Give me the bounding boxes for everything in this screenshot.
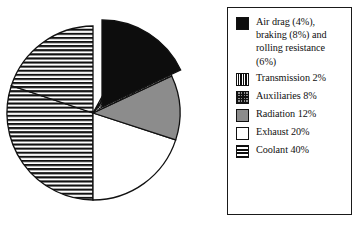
legend-item-exhaust[interactable]: Exhaust 20%: [236, 125, 347, 140]
legend-label-coolant: Coolant 40%: [256, 143, 309, 156]
legend-item-airdrag[interactable]: Air drag (4%), braking (8%) and rolling …: [236, 15, 347, 68]
pie-chart-area: [0, 0, 200, 234]
pie-chart-svg: [0, 0, 200, 234]
pie-chart-figure: Air drag (4%), braking (8%) and rolling …: [0, 0, 364, 234]
white-swatch-icon: [236, 127, 249, 140]
legend-label-airdrag: Air drag (4%), braking (8%) and rolling …: [256, 15, 347, 68]
legend-label-transmission: Transmission 2%: [256, 71, 326, 84]
legend-label-auxiliaries: Auxiliaries 8%: [256, 89, 317, 102]
legend-list: Air drag (4%), braking (8%) and rolling …: [236, 15, 347, 161]
solid-gray-swatch-icon: [236, 109, 249, 122]
legend-label-radiation: Radiation 12%: [256, 107, 316, 120]
checker-swatch-icon: [236, 91, 249, 104]
horizontal-stripes-swatch-icon: [236, 145, 249, 158]
legend-item-transmission[interactable]: Transmission 2%: [236, 71, 347, 86]
legend-label-exhaust: Exhaust 20%: [256, 125, 310, 138]
legend-item-radiation[interactable]: Radiation 12%: [236, 107, 347, 122]
legend-item-auxiliaries[interactable]: Auxiliaries 8%: [236, 89, 347, 104]
vertical-stripes-swatch-icon: [236, 73, 249, 86]
legend: Air drag (4%), braking (8%) and rolling …: [227, 7, 352, 215]
solid-black-swatch-icon: [236, 17, 249, 30]
legend-item-coolant[interactable]: Coolant 40%: [236, 143, 347, 158]
